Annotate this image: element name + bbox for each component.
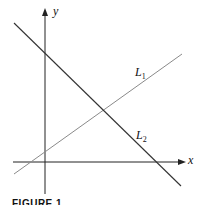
- y-axis-label: y: [53, 5, 58, 17]
- l1-label-name: L: [135, 65, 142, 79]
- l2-label-name: L: [136, 128, 143, 142]
- figure: y x L1 L2 FIGURE 1: [0, 0, 202, 205]
- line-l1: [14, 54, 182, 174]
- l2-label: L2: [136, 129, 147, 144]
- x-axis-label: x: [188, 154, 193, 166]
- coordinate-plane: [0, 0, 202, 205]
- l2-label-subscript: 2: [143, 135, 147, 144]
- x-axis-arrow-icon: [178, 159, 186, 165]
- y-axis-arrow-icon: [42, 8, 48, 16]
- l1-label: L1: [135, 66, 146, 81]
- l1-label-subscript: 1: [142, 72, 146, 81]
- figure-caption: FIGURE 1: [12, 199, 62, 205]
